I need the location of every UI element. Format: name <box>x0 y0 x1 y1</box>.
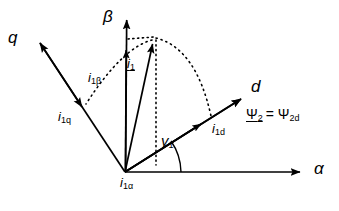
vector-label-i1-beta: i1β <box>88 71 101 84</box>
vector-label-i1-q: i1q <box>58 110 71 123</box>
axis-label-q: q <box>8 29 17 46</box>
flux-equation: Ψ2= Ψ2d <box>246 107 300 121</box>
vector-label-i1-d: i1d <box>212 122 225 135</box>
axis-label-beta: β <box>103 8 113 25</box>
angle-label-gamma1-symbol: γ <box>161 132 169 149</box>
phasor-diagram-canvas: q β d α i1 i1β i1q i1d i1α Ψ2= Ψ2d γ1 <box>0 0 339 211</box>
vector-i1-q <box>40 43 82 107</box>
vector-label-i1-beta-subscript: 1β <box>91 76 101 86</box>
flux-psi2-subscript: 2 <box>258 113 263 123</box>
vector-label-i1-subscript: 1 <box>130 62 135 72</box>
vector-label-i1-alpha: i1α <box>120 176 133 189</box>
projection-arc-d <box>156 38 211 116</box>
flux-psi2-symbol: Ψ <box>246 106 258 122</box>
angle-label-gamma1: γ1 <box>161 133 174 148</box>
flux-vector-psi2: Ψ2 <box>246 106 263 122</box>
angle-label-gamma1-subscript: 1 <box>169 140 174 150</box>
vector-label-i1-alpha-subscript: 1α <box>123 181 133 191</box>
axis-label-d: d <box>251 78 260 95</box>
projection-line-beta <box>128 37 154 39</box>
flux-psi2d-subscript: 2d <box>289 113 299 123</box>
flux-equals-psi2d: = Ψ <box>263 106 290 122</box>
vector-label-i1-d-subscript: 1d <box>215 127 225 137</box>
axis-label-alpha: α <box>314 160 324 177</box>
vector-label-i1-q-subscript: 1q <box>61 115 71 125</box>
vector-label-i1: i1 <box>127 57 135 70</box>
